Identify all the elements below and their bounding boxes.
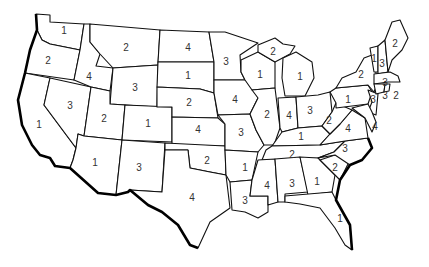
- state-label-ca: 1: [36, 120, 42, 130]
- state-label-ar: 1: [242, 163, 248, 173]
- state-label-mt: 2: [123, 43, 129, 53]
- state-label-ma: 3: [382, 78, 388, 88]
- state-label-va: 4: [345, 124, 351, 134]
- state-label-ri: 2: [393, 91, 399, 101]
- state-label-vt: 1: [371, 54, 377, 64]
- state-label-id: 4: [86, 72, 92, 82]
- us-map: [0, 0, 429, 267]
- state-label-mi-up: 2: [270, 47, 276, 57]
- state-label-wi: 1: [257, 70, 263, 80]
- state-label-or: 2: [45, 56, 51, 66]
- state-label-ut: 2: [101, 114, 107, 124]
- state-label-tx: 4: [189, 193, 195, 203]
- state-label-nj: 3: [370, 95, 376, 105]
- state-label-nc: 3: [342, 144, 348, 154]
- state-label-nm: 3: [136, 163, 142, 173]
- state-label-ky: 1: [298, 132, 304, 142]
- state-label-nv: 3: [67, 101, 73, 111]
- state-label-mo: 3: [238, 128, 244, 138]
- state-label-nd: 4: [185, 43, 191, 53]
- state-label-wy: 3: [132, 83, 138, 93]
- state-label-ne: 2: [186, 98, 192, 108]
- state-label-me: 2: [392, 39, 398, 49]
- state-label-fl: 1: [337, 214, 343, 224]
- state-label-ms: 4: [264, 181, 270, 191]
- state-label-ny: 2: [358, 70, 364, 80]
- state-label-ks: 4: [195, 125, 201, 135]
- state-label-wv: 2: [326, 116, 332, 126]
- state-label-il: 2: [264, 110, 270, 120]
- state-label-pa: 1: [345, 95, 351, 105]
- state-label-sc: 2: [332, 163, 338, 173]
- state-label-al: 3: [289, 179, 295, 189]
- state-label-la: 3: [242, 196, 248, 206]
- state-label-az: 1: [92, 158, 98, 168]
- state-label-ga: 1: [314, 177, 320, 187]
- state-label-wa: 1: [61, 26, 67, 36]
- state-label-in: 4: [286, 111, 292, 121]
- state-label-oh: 3: [307, 106, 313, 116]
- state-label-nh: 3: [379, 59, 385, 69]
- state-label-md-de: 4: [372, 122, 378, 132]
- state-label-mn: 3: [223, 57, 229, 67]
- state-label-co: 1: [145, 119, 151, 129]
- state-label-sd: 1: [185, 71, 191, 81]
- state-label-mi: 1: [297, 72, 303, 82]
- state-label-ok: 2: [204, 156, 210, 166]
- state-label-ia: 4: [232, 95, 238, 105]
- state-label-tn: 2: [289, 150, 295, 160]
- state-label-ct: 3: [382, 91, 388, 101]
